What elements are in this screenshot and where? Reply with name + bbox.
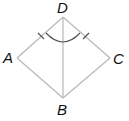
segment-ab: [17, 58, 63, 98]
label-c: C: [113, 50, 124, 67]
label-d: D: [57, 0, 68, 16]
kite-diagram: D A C B: [0, 0, 129, 121]
segment-cb: [63, 58, 110, 98]
label-b: B: [57, 101, 67, 118]
label-a: A: [2, 49, 13, 66]
segment-da: [17, 17, 63, 58]
segment-dc: [63, 17, 110, 58]
